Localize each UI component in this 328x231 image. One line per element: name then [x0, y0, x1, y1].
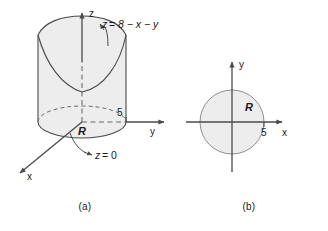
y-tick-label-5: 5 — [117, 107, 123, 118]
bottom-equation-equals: = — [102, 149, 108, 161]
top-equation-equals: = — [109, 18, 115, 30]
top-equation-lhs: z — [101, 18, 108, 30]
bottom-equation-rhs: 0 — [111, 149, 117, 161]
z-axis-label: z — [89, 8, 94, 19]
panel-b-projection: y x 5 R (b) — [170, 0, 328, 231]
panel-a-caption: (a) — [0, 201, 170, 212]
region-label-R-3d: R — [78, 125, 86, 137]
y-axis-label: y — [239, 59, 244, 70]
figure-root: z y x 5 R z = 8 − x − y z = 0 (a) — [0, 0, 328, 231]
panel-a-3d-solid: z y x 5 R z = 8 − x − y z = 0 (a) — [0, 0, 170, 231]
panel-a-svg: z y x 5 R z = 8 − x − y z = 0 — [0, 0, 170, 200]
y-axis-label: y — [150, 126, 155, 137]
x-axis-label: x — [282, 127, 287, 138]
x-tick-label-5: 5 — [261, 127, 267, 138]
region-label-R-2d: R — [245, 101, 253, 113]
bottom-plane-equation: z = 0 — [94, 149, 117, 161]
top-plane-equation: z = 8 − x − y — [101, 18, 159, 30]
bottom-equation-leader-arrow — [84, 152, 92, 155]
top-equation-rhs: 8 − x − y — [118, 18, 159, 30]
panel-b-caption: (b) — [170, 201, 328, 212]
x-axis-label: x — [27, 171, 32, 182]
bottom-equation-lhs: z — [94, 149, 101, 161]
panel-b-svg: y x 5 R — [170, 0, 328, 200]
